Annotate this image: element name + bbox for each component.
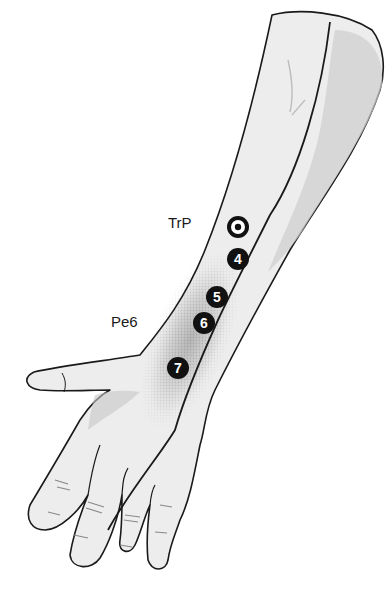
svg-text:4: 4 — [234, 251, 242, 267]
svg-text:6: 6 — [200, 315, 208, 331]
trp-label: TrP — [168, 214, 192, 231]
acupoint-5: 5 — [206, 286, 228, 308]
acupoint-6: 6 — [193, 312, 215, 334]
trigger-point-marker — [227, 216, 249, 238]
pe6-label: Pe6 — [111, 313, 138, 330]
svg-text:5: 5 — [213, 289, 221, 305]
svg-text:7: 7 — [174, 360, 182, 376]
acupoint-4: 4 — [227, 248, 249, 270]
acupoint-7: 7 — [167, 357, 189, 379]
arm-illustration: 4 5 6 7 — [0, 0, 387, 594]
